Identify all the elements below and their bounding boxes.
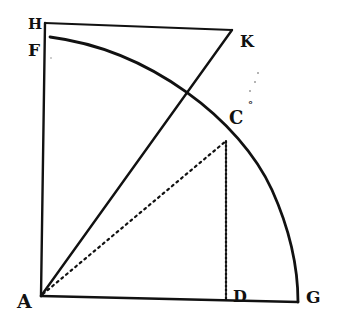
ink-speck — [257, 72, 259, 74]
label-H: H — [28, 15, 42, 33]
label-mark: ° — [248, 99, 253, 110]
label-F: F — [28, 40, 40, 60]
segment-HK — [45, 23, 232, 30]
label-K: K — [240, 32, 255, 51]
label-C: C — [229, 107, 243, 128]
arc-FG — [50, 37, 298, 302]
segment-AG — [41, 296, 298, 302]
ink-speck — [50, 57, 51, 58]
label-A: A — [16, 290, 32, 312]
ink-speck — [249, 90, 251, 92]
segment-AK — [41, 30, 232, 296]
geometry-diagram: H F K C ° A D G — [0, 0, 338, 322]
label-D: D — [233, 287, 247, 306]
label-G: G — [306, 287, 321, 307]
segment-HA — [41, 23, 45, 296]
ink-speck — [254, 81, 256, 83]
